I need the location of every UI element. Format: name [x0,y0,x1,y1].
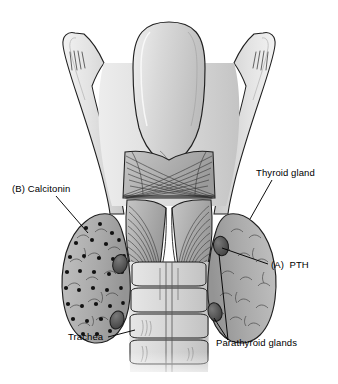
label-calcitonin: (B) Calcitonin [12,183,70,194]
trachea [124,262,216,384]
label-pth: (A) PTH [271,259,309,270]
anatomy-figure: (B) Calcitonin Thyroid gland (A) PTH Tra… [0,0,338,384]
label-thyroid-gland: Thyroid gland [256,167,315,178]
trachea-fade [124,352,216,384]
label-trachea: Trachea [68,331,103,342]
label-parathyroid-glands: Parathyroid glands [216,337,297,348]
